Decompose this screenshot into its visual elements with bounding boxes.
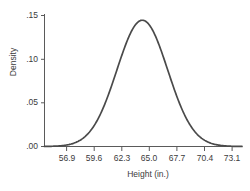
x-tick-label-6: 73.1 <box>217 153 247 163</box>
x-tick-label-2: 62.3 <box>107 153 137 163</box>
y-tick-label-0: .15 <box>20 10 38 20</box>
x-tick-label-4: 67.7 <box>162 153 192 163</box>
x-tick-label-5: 70.4 <box>190 153 220 163</box>
density-curve <box>45 20 243 146</box>
x-tick-label-0: 56.9 <box>52 153 82 163</box>
y-tick-label-2: .05 <box>20 97 38 107</box>
x-tick-label-3: 65.0 <box>134 153 164 163</box>
y-axis-ticks <box>41 16 45 147</box>
y-axis-title: Density <box>8 32 18 92</box>
x-axis-ticks <box>67 147 233 152</box>
x-axis-title: Height (in.) <box>98 169 198 179</box>
y-tick-label-3: .00 <box>20 141 38 151</box>
x-tick-label-1: 59.6 <box>79 153 109 163</box>
density-chart: .15 .10 .05 .00 56.9 59.6 62.3 65.0 67.7… <box>0 0 250 191</box>
y-tick-label-1: .10 <box>20 54 38 64</box>
